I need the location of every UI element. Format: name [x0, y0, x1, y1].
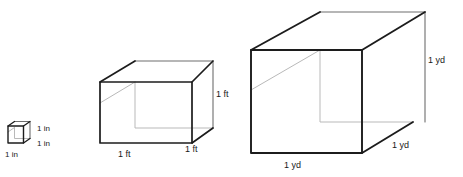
- small-cube-height-label: 1 in: [37, 124, 50, 133]
- medium-cube-front-edges: [100, 61, 213, 143]
- medium-cube-hidden-edges: [100, 82, 213, 128]
- small-cube-width-label: 1 in: [5, 150, 18, 159]
- large-cube-hidden-edges: [251, 50, 413, 122]
- medium-cube: 1 ft 1 ft 1 ft: [100, 61, 229, 159]
- medium-cube-height-label: 1 ft: [216, 89, 229, 99]
- small-cube-front-edges: [8, 122, 30, 144]
- large-cube-height-label: 1 yd: [428, 55, 445, 65]
- small-cube-back-edges: [15, 122, 31, 139]
- medium-cube-width-label: 1 ft: [118, 149, 131, 159]
- cube-comparison-figure: 1 in 1 in 1 in 1 ft 1 ft 1 ft: [0, 0, 463, 177]
- medium-cube-depth-label: 1 ft: [185, 144, 198, 154]
- large-cube-depth-label: 1 yd: [392, 140, 409, 150]
- small-cube: 1 in 1 in 1 in: [5, 122, 50, 160]
- diagram-canvas: 1 in 1 in 1 in 1 ft 1 ft 1 ft: [0, 0, 463, 177]
- medium-cube-back-edges: [135, 61, 213, 128]
- large-cube-back-edges: [320, 12, 425, 122]
- large-cube: 1 yd 1 yd 1 yd: [251, 12, 445, 170]
- large-cube-width-label: 1 yd: [284, 160, 301, 170]
- small-cube-depth-label: 1 in: [37, 139, 50, 148]
- large-cube-front-edges: [251, 12, 425, 153]
- small-cube-hidden-edges: [8, 128, 30, 139]
